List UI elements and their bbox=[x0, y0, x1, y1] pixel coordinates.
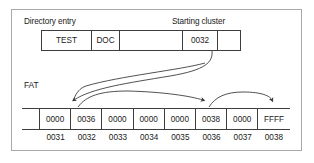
fat-cell-0037: 0000 bbox=[227, 109, 258, 129]
directory-cell-attributes bbox=[120, 31, 183, 50]
fat-cell-0038: FFFF bbox=[258, 109, 289, 129]
directory-cell-starting-cluster: 0032 bbox=[183, 31, 218, 50]
directory-cell-filename: TEST bbox=[42, 31, 92, 50]
fat-address-0032: 0032 bbox=[71, 133, 102, 145]
fat-address-0033: 0033 bbox=[102, 133, 133, 145]
fat-cell-0036: 0038 bbox=[196, 109, 227, 129]
fat-table-row: 0000 0036 0000 0000 0000 0038 0000 FFFF bbox=[22, 108, 290, 130]
fat-address-0035: 0035 bbox=[165, 133, 196, 145]
directory-entry-row: TEST DOC 0032 bbox=[41, 30, 241, 51]
fat-address-0037: 0037 bbox=[227, 133, 258, 145]
fat-address-row: 0031 0032 0033 0034 0035 0036 0037 0038 bbox=[40, 133, 290, 145]
fat-cluster-chain-figure: Directory entry Starting cluster FAT TES… bbox=[0, 0, 314, 163]
fat-cell-0035: 0000 bbox=[165, 109, 196, 129]
directory-cell-extension: DOC bbox=[92, 31, 120, 50]
fat-cell-0032: 0036 bbox=[71, 109, 102, 129]
fat-address-0031: 0031 bbox=[40, 133, 71, 145]
starting-cluster-label: Starting cluster bbox=[172, 17, 225, 26]
fat-cell-0034: 0000 bbox=[134, 109, 165, 129]
fat-address-0038: 0038 bbox=[258, 133, 289, 145]
directory-entry-label: Directory entry bbox=[24, 17, 76, 26]
fat-cell-0031: 0000 bbox=[40, 109, 71, 129]
directory-cell-size bbox=[218, 31, 240, 50]
fat-label: FAT bbox=[24, 80, 38, 90]
fat-cell-lead bbox=[22, 109, 40, 129]
fat-address-0036: 0036 bbox=[196, 133, 227, 145]
fat-cell-0033: 0000 bbox=[102, 109, 133, 129]
fat-address-0034: 0034 bbox=[134, 133, 165, 145]
